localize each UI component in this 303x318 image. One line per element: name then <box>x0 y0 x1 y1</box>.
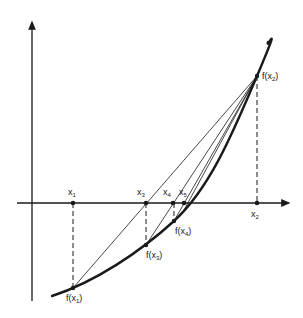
label-x1: x1 <box>68 188 76 198</box>
label-x3: x3 <box>137 188 145 198</box>
label-x5-sub: 5 <box>184 192 187 198</box>
label-fx1: f(x1) <box>66 294 82 304</box>
label-fx4: f(x4) <box>175 227 191 237</box>
point-x4 <box>171 201 176 206</box>
point-x5 <box>182 201 187 206</box>
secant-1 <box>73 76 257 288</box>
label-fx1-close: ) <box>79 293 82 303</box>
point-x1 <box>71 201 76 206</box>
point-fx4 <box>172 219 176 223</box>
secant-method-diagram <box>0 0 303 318</box>
label-x5: x5 <box>179 188 187 198</box>
point-x2 <box>255 201 260 206</box>
label-fx1-main: f(x <box>66 293 76 303</box>
label-x2-sub: 2 <box>256 214 259 220</box>
secant-lines <box>73 76 257 288</box>
secant-3 <box>174 76 257 221</box>
label-fx4-close: ) <box>188 226 191 236</box>
label-fx3: f(x3) <box>146 251 162 261</box>
secant-4 <box>184 76 257 210</box>
point-fx3 <box>144 243 148 247</box>
label-x3-sub: 3 <box>142 192 145 198</box>
label-fx2: f(x2) <box>262 72 278 82</box>
label-fx2-close: ) <box>275 71 278 81</box>
label-fx3-close: ) <box>159 250 162 260</box>
label-fx3-main: f(x <box>146 250 156 260</box>
point-fx2 <box>255 74 259 78</box>
label-x2: x2 <box>251 210 259 220</box>
label-x4: x4 <box>163 188 171 198</box>
point-fx1 <box>71 286 75 290</box>
point-x3 <box>144 201 149 206</box>
label-x4-sub: 4 <box>168 192 171 198</box>
label-fx2-main: f(x <box>262 71 272 81</box>
secant-2 <box>146 76 257 245</box>
label-fx4-main: f(x <box>175 226 185 236</box>
label-x1-sub: 1 <box>73 192 76 198</box>
